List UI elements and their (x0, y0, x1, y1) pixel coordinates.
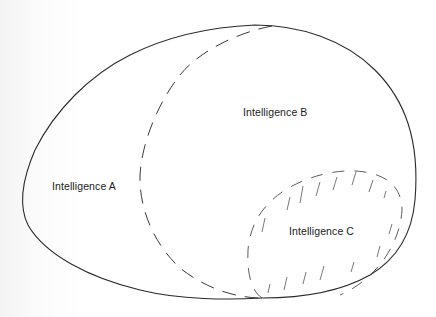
diagram-canvas (0, 0, 436, 317)
outer-boundary-a (22, 25, 416, 299)
intelligence-diagram: Intelligence A Intelligence B Intelligen… (0, 0, 436, 317)
label-intelligence-c: Intelligence C (289, 225, 354, 237)
label-intelligence-a: Intelligence A (52, 180, 116, 192)
dashed-boundary-b (140, 26, 272, 298)
label-intelligence-b: Intelligence B (243, 106, 307, 118)
